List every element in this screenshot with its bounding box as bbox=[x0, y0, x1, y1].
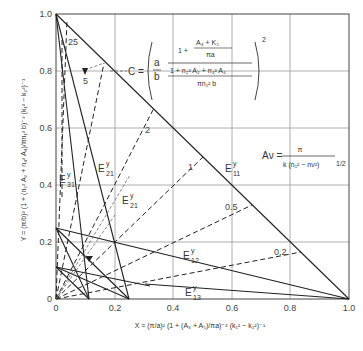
svg-text:0.8: 0.8 bbox=[284, 303, 297, 313]
mode-chart: 0 0.2 0.4 0.6 0.8 1.0 0 0.2 0.4 0.6 0.8 … bbox=[0, 0, 363, 351]
mode-label-e31: E y 31 bbox=[59, 171, 75, 188]
svg-text:0.6: 0.6 bbox=[39, 123, 52, 133]
svg-text:k (n₁² − nν²): k (n₁² − nν²) bbox=[283, 161, 319, 169]
mode-label-e13: E y 13 bbox=[185, 284, 201, 301]
line-e31 bbox=[56, 14, 89, 299]
svg-text:2: 2 bbox=[262, 36, 266, 43]
svg-text:y: y bbox=[193, 284, 197, 292]
svg-text:E: E bbox=[98, 163, 105, 174]
mode-label-e11: E y 11 bbox=[225, 160, 240, 177]
svg-text:5: 5 bbox=[83, 76, 88, 86]
svg-text:25: 25 bbox=[68, 37, 78, 47]
svg-text:C =: C = bbox=[128, 66, 144, 77]
svg-text:0.6: 0.6 bbox=[226, 303, 239, 313]
svg-text:A₃ + K₅: A₃ + K₅ bbox=[196, 39, 219, 46]
svg-text:π: π bbox=[298, 146, 303, 153]
svg-text:0.5: 0.5 bbox=[225, 202, 238, 212]
arrow-icon bbox=[82, 68, 88, 75]
mode-label-e12: E y 12 bbox=[183, 247, 199, 264]
svg-text:E: E bbox=[225, 163, 232, 174]
svg-text:πn₁² b: πn₁² b bbox=[197, 80, 216, 87]
x-tick-labels: 0 0.2 0.4 0.6 0.8 1.0 bbox=[53, 303, 355, 313]
svg-text:0: 0 bbox=[53, 303, 58, 313]
svg-text:E: E bbox=[183, 250, 190, 261]
mode-label-e21: E y 21 bbox=[98, 160, 114, 177]
svg-text:11: 11 bbox=[233, 170, 240, 177]
svg-text:y: y bbox=[67, 171, 71, 179]
x-axis-title: X = (π/a)² (1 + (A₃ + A₅)/πa)⁻² (k₁² − k… bbox=[135, 322, 266, 330]
svg-text:21: 21 bbox=[130, 202, 138, 209]
mode-label-e21b: E y 21 bbox=[122, 192, 138, 209]
svg-text:Aν =: Aν = bbox=[262, 150, 282, 161]
svg-text:0.2: 0.2 bbox=[274, 247, 287, 257]
svg-text:πa: πa bbox=[206, 51, 215, 58]
svg-text:1.0: 1.0 bbox=[343, 303, 356, 313]
svg-text:0: 0 bbox=[47, 294, 52, 304]
svg-text:13: 13 bbox=[193, 294, 201, 301]
svg-text:E: E bbox=[185, 287, 192, 298]
svg-text:1/2: 1/2 bbox=[336, 160, 346, 167]
svg-text:1 + n₂² A₂ + n₄² A₄: 1 + n₂² A₂ + n₄² A₄ bbox=[170, 67, 226, 74]
formula-c: C = a b 1 + A₃ + K₅ πa 1 + n₂² A₂ + n₄² … bbox=[110, 36, 266, 100]
line-e11 bbox=[56, 14, 349, 299]
mode-lines bbox=[56, 14, 349, 299]
svg-text:0.4: 0.4 bbox=[39, 180, 52, 190]
c-line-02 bbox=[56, 252, 301, 299]
y-tick-labels: 0 0.2 0.4 0.6 0.8 1.0 bbox=[39, 9, 52, 304]
svg-text:1: 1 bbox=[188, 162, 193, 172]
svg-text:y: y bbox=[191, 247, 195, 255]
svg-text:0.8: 0.8 bbox=[39, 66, 52, 76]
arrow-icon bbox=[86, 256, 93, 262]
svg-text:21: 21 bbox=[106, 170, 114, 177]
svg-text:0.2: 0.2 bbox=[109, 303, 122, 313]
y-axis-title: Y = (π/b)² (1 + (n₂² A₂ + n₄² A₄)/πn₁² b… bbox=[20, 78, 28, 241]
svg-text:E: E bbox=[122, 195, 129, 206]
svg-text:y: y bbox=[233, 160, 237, 168]
formula-a-nu: Aν = π k (n₁² − nν²) 1/2 bbox=[262, 146, 346, 169]
svg-text:0.2: 0.2 bbox=[39, 237, 52, 247]
svg-text:12: 12 bbox=[191, 257, 199, 264]
svg-text:b: b bbox=[154, 71, 160, 82]
c-line-1 bbox=[56, 157, 203, 299]
svg-text:y: y bbox=[106, 160, 110, 168]
svg-text:a: a bbox=[154, 57, 160, 68]
svg-text:31: 31 bbox=[67, 181, 75, 188]
svg-text:1 +: 1 + bbox=[178, 47, 188, 54]
svg-text:y: y bbox=[130, 192, 134, 200]
svg-text:1.0: 1.0 bbox=[39, 9, 52, 19]
svg-text:E: E bbox=[59, 174, 66, 185]
svg-text:0.4: 0.4 bbox=[167, 303, 180, 313]
svg-text:2: 2 bbox=[145, 125, 150, 135]
